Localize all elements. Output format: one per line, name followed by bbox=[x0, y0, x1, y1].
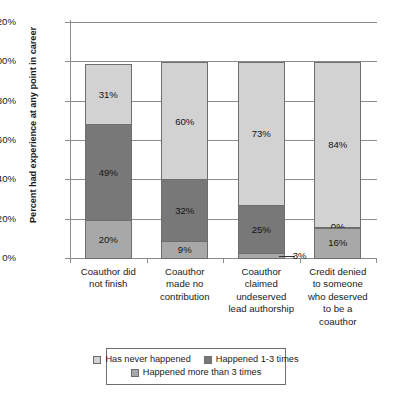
legend-swatch-icon-one-to-three bbox=[204, 356, 212, 364]
x-tick-mark bbox=[70, 258, 71, 263]
legend-swatch-icon-more-than-three bbox=[131, 369, 139, 377]
y-tick-label: 80% bbox=[0, 95, 16, 106]
bar-segment[interactable]: 16% bbox=[314, 228, 361, 259]
legend-label-more-than-three: Happened more than 3 times bbox=[143, 366, 262, 379]
x-axis-category-label: Coauthor didnot finish bbox=[65, 266, 151, 291]
legend-label-one-to-three: Happened 1-3 times bbox=[216, 353, 299, 366]
x-tick-mark bbox=[147, 258, 148, 263]
bar-segment[interactable]: 20% bbox=[85, 220, 132, 259]
legend-label-never: Has never happened bbox=[105, 353, 190, 366]
category-label-line: undeserved bbox=[218, 291, 304, 303]
category-label-line: contribution bbox=[142, 291, 228, 303]
category-label-line: Credit denied bbox=[295, 266, 381, 278]
x-tick-mark bbox=[300, 258, 301, 263]
stacked-bar-chart: Percent had experience at any point in c… bbox=[0, 0, 393, 401]
category-label-line: to be a bbox=[295, 303, 381, 315]
chart-legend: Has never happened Happened 1-3 times Ha… bbox=[106, 348, 286, 385]
bar-segment[interactable]: 31% bbox=[85, 64, 132, 125]
bar-segment[interactable]: 49% bbox=[85, 124, 132, 220]
y-tick-label: 20% bbox=[0, 213, 16, 224]
bar-segment[interactable]: 9% bbox=[161, 241, 208, 259]
x-axis-category-label: Credit deniedto someonewho deservedto be… bbox=[295, 266, 381, 328]
x-axis-category-label: Coauthormade nocontribution bbox=[142, 266, 228, 303]
bar-segment-value-label: 73% bbox=[252, 129, 271, 139]
x-tick-mark bbox=[376, 258, 377, 263]
legend-row-1: Has never happened Happened 1-3 times bbox=[112, 353, 280, 366]
legend-item-happened-more-than-3-times[interactable]: Happened more than 3 times bbox=[131, 366, 262, 379]
bar-segment-value-label: 9% bbox=[178, 245, 192, 255]
bar-column[interactable]: 60%32%9% bbox=[161, 62, 208, 258]
category-label-line: who deserved bbox=[295, 291, 381, 303]
category-label-line: not finish bbox=[65, 278, 151, 290]
bar-column[interactable]: 84%0%16% bbox=[314, 62, 361, 258]
bar-column[interactable]: 31%49%20% bbox=[85, 64, 132, 258]
y-tick-label: 40% bbox=[0, 173, 16, 184]
category-label-line: to someone bbox=[295, 278, 381, 290]
bar-segment-value-label: 32% bbox=[175, 206, 194, 216]
category-label-line: Coauthor bbox=[142, 266, 228, 278]
legend-swatch-icon-never bbox=[93, 356, 101, 364]
category-label-line: Coauthor bbox=[218, 266, 304, 278]
legend-item-has-never-happened[interactable]: Has never happened bbox=[93, 353, 190, 366]
category-label-line: made no bbox=[142, 278, 228, 290]
bar-segment[interactable]: 60% bbox=[161, 62, 208, 180]
bar-column[interactable]: 73%25%3% bbox=[238, 62, 285, 258]
bar-segment-value-label: 16% bbox=[328, 238, 347, 248]
x-tick-mark bbox=[223, 258, 224, 263]
y-tick-label: 0% bbox=[0, 252, 16, 263]
bar-segment[interactable]: 73% bbox=[238, 62, 285, 206]
category-label-line: lead authorship bbox=[218, 303, 304, 315]
category-label-line: claimed bbox=[218, 278, 304, 290]
y-tick-label: 120% bbox=[0, 16, 16, 27]
bar-segment[interactable]: 3% bbox=[238, 253, 285, 259]
x-axis-category-label: Coauthorclaimedundeservedlead authorship bbox=[218, 266, 304, 316]
bar-segment-value-label: 31% bbox=[99, 90, 118, 100]
plot-area: 31%49%20%60%32%9%73%25%3%84%0%16% bbox=[70, 22, 376, 258]
bar-segment-value-label: 20% bbox=[99, 235, 118, 245]
category-label-line: Coauthor did bbox=[65, 266, 151, 278]
y-axis-title: Percent had experience at any point in c… bbox=[28, 0, 38, 250]
bar-segment-value-label: 25% bbox=[252, 225, 271, 235]
legend-item-happened-1-3-times[interactable]: Happened 1-3 times bbox=[204, 353, 299, 366]
bar-segment-value-label: 84% bbox=[328, 140, 347, 150]
bar-segment-value-label: 60% bbox=[175, 117, 194, 127]
bar-segment-value-label: 49% bbox=[99, 168, 118, 178]
bar-segment[interactable]: 84% bbox=[314, 62, 361, 227]
category-label-line: coauthor bbox=[295, 316, 381, 328]
legend-row-2: Happened more than 3 times bbox=[112, 366, 280, 379]
bar-segment[interactable]: 32% bbox=[161, 179, 208, 242]
y-tick-label: 60% bbox=[0, 134, 16, 145]
y-tick-label: 100% bbox=[0, 55, 16, 66]
bar-segment[interactable]: 25% bbox=[238, 205, 285, 254]
